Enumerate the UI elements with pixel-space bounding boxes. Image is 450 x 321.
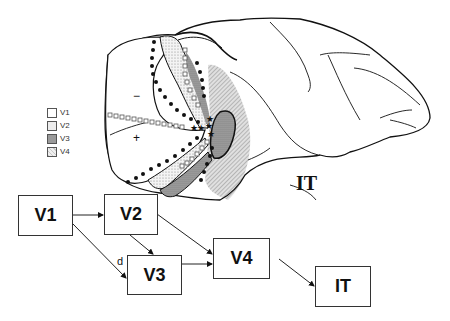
v4-swatch xyxy=(47,147,57,157)
node-v4: V4 xyxy=(213,238,270,279)
edge-v2-v4 xyxy=(157,214,212,254)
figure: ★★★ ★★ IT − + V1 V2 xyxy=(0,0,450,321)
legend-label: V1 xyxy=(60,108,70,117)
minus-sign: − xyxy=(133,89,140,103)
v2-swatch xyxy=(47,121,57,131)
legend-item-v3: V3 xyxy=(47,132,70,145)
legend-label: V3 xyxy=(60,134,70,143)
v3-swatch xyxy=(47,134,57,144)
node-v2: V2 xyxy=(104,194,158,235)
edge-label-d: d xyxy=(117,255,123,267)
svg-text:★: ★ xyxy=(207,129,215,139)
legend: V1 V2 V3 V4 xyxy=(47,106,70,158)
edge-v2-v3 xyxy=(130,235,153,254)
legend-item-v2: V2 xyxy=(47,119,70,132)
svg-text:★: ★ xyxy=(206,114,214,124)
legend-item-v4: V4 xyxy=(47,145,70,158)
brain-it-label: IT xyxy=(296,172,317,195)
edge-v4-it xyxy=(279,259,314,286)
node-v1: V1 xyxy=(18,195,73,236)
node-it: IT xyxy=(315,266,371,307)
svg-text:★: ★ xyxy=(197,123,205,133)
plus-sign: + xyxy=(133,131,140,145)
node-v3: V3 xyxy=(127,255,182,295)
legend-label: V2 xyxy=(60,121,70,130)
legend-item-v1: V1 xyxy=(47,106,70,119)
legend-label: V4 xyxy=(60,147,70,156)
v1-swatch xyxy=(47,108,57,118)
